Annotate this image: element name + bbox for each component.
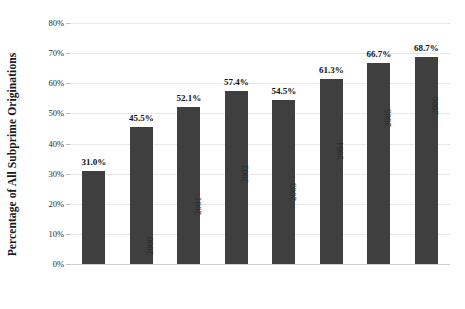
bar-value-label: 45.5% [129,114,154,123]
x-axis-category-label: 2001 [193,197,202,215]
gridline [70,53,450,54]
gridline [70,83,450,84]
bar-value-label: 31.0% [81,158,106,167]
x-axis-category-label: 2004 [336,142,345,160]
gridline [70,174,450,175]
bar[interactable] [82,171,105,264]
bar-group[interactable]: 54.5%2003 [272,100,295,264]
x-axis-category-label: 2005 [383,109,392,127]
bar-group[interactable]: 61.3%2004 [320,79,343,264]
y-axis-tick-label: 60% [18,79,64,88]
y-axis-tick-mark [66,83,70,84]
gridline [70,234,450,235]
bar-group[interactable]: 45.5%2000 [130,127,153,264]
bar[interactable] [367,63,390,264]
y-axis-tick-label: 80% [18,19,64,28]
gridline [70,204,450,205]
gridline [70,144,450,145]
bar[interactable] [177,107,200,264]
y-axis-tick-label: 30% [18,169,64,178]
bar[interactable] [415,57,438,264]
bar[interactable] [320,79,343,264]
y-axis-tick-mark [66,23,70,24]
y-axis-tick-mark [66,174,70,175]
y-axis-tick-label: 70% [18,49,64,58]
x-axis-category-label: 2003 [288,183,297,201]
gridline [70,113,450,114]
bar-group[interactable]: 66.7%2005 [367,63,390,264]
plot-area: 0%10%20%30%40%50%60%70%80% 31.0%199945.5… [70,23,450,264]
bar-group[interactable]: 31.0%1999 [82,171,105,264]
y-axis-tick-mark [66,53,70,54]
y-axis-tick-mark [66,113,70,114]
bar-group[interactable]: 68.7%2006 [415,57,438,264]
bar-chart: Percentage of All Subprime Originations … [0,0,465,309]
bar-group[interactable]: 57.4%2002 [225,91,248,264]
bar-value-label: 68.7% [414,44,439,53]
bar-value-label: 54.5% [271,87,296,96]
y-axis-tick-label: 50% [18,109,64,118]
bar-group[interactable]: 52.1%2001 [177,107,200,264]
x-axis-category-label: 2002 [241,165,250,183]
x-axis-category-label: 2006 [431,97,440,115]
bar-value-label: 52.1% [176,94,201,103]
bar[interactable] [272,100,295,264]
y-axis-tick-label: 20% [18,200,64,209]
y-axis-tick-mark [66,144,70,145]
y-axis-tick-mark [66,204,70,205]
bar-value-label: 66.7% [366,50,391,59]
y-axis-tick-mark [66,234,70,235]
gridline [70,23,450,24]
x-axis-category-label: 2000 [146,237,155,255]
y-axis-tick-label: 0% [18,260,64,269]
bar-value-label: 61.3% [319,66,344,75]
y-axis-tick-label: 10% [18,230,64,239]
gridline [70,264,450,265]
bar-value-label: 57.4% [224,78,249,87]
y-axis-tick-mark [66,264,70,265]
y-axis-tick-label: 40% [18,139,64,148]
